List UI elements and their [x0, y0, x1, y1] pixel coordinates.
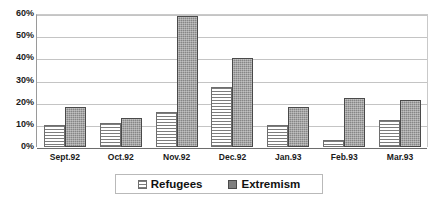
y-axis-tick-label: 0% [2, 142, 34, 151]
y-axis-tick-label: 20% [2, 98, 34, 107]
chart-legend: Refugees Extremism [115, 174, 323, 194]
bars-layer [37, 14, 428, 147]
x-axis-tick-label: Oct.92 [93, 150, 149, 164]
legend-swatch-extremism-icon [228, 180, 237, 189]
legend-swatch-refugees-icon [138, 180, 147, 189]
gridline-0 [37, 148, 427, 149]
bar-group [37, 14, 93, 147]
bar-group [372, 14, 428, 147]
bar-extremism-nov-92 [177, 16, 198, 147]
x-axis: Sept.92Oct.92Nov.92Dec.92Jan.93Feb.93Mar… [37, 150, 428, 166]
legend-entry-extremism: Extremism [228, 178, 300, 190]
y-axis-tick-label: 10% [2, 120, 34, 129]
bar-chart: 60%50%40%30%20%10%0% Sept.92Oct.92Nov.92… [0, 0, 436, 203]
bar-refugees-sept-92 [44, 125, 65, 147]
bar-extremism-sept-92 [65, 107, 86, 147]
x-axis-tick-label: Sept.92 [37, 150, 93, 164]
bar-extremism-dec-92 [232, 58, 253, 147]
bar-extremism-mar-93 [400, 100, 421, 147]
x-axis-tick-label: Jan.93 [260, 150, 316, 164]
bar-group [149, 14, 205, 147]
bar-group [316, 14, 372, 147]
legend-label-refugees: Refugees [151, 178, 203, 190]
legend-entry-refugees: Refugees [138, 178, 203, 190]
x-axis-tick-label: Feb.93 [316, 150, 372, 164]
bar-refugees-feb-93 [323, 140, 344, 147]
x-axis-tick-label: Nov.92 [149, 150, 205, 164]
x-axis-tick-label: Mar.93 [372, 150, 428, 164]
bar-group [205, 14, 261, 147]
bar-refugees-nov-92 [156, 112, 177, 147]
bar-group [93, 14, 149, 147]
legend-label-extremism: Extremism [241, 178, 300, 190]
bar-extremism-feb-93 [344, 98, 365, 147]
y-axis: 60%50%40%30%20%10%0% [0, 14, 34, 147]
bar-refugees-dec-92 [211, 87, 232, 147]
y-axis-tick-label: 60% [2, 9, 34, 18]
bar-group [260, 14, 316, 147]
bar-extremism-jan-93 [288, 107, 309, 147]
x-axis-tick-label: Dec.92 [205, 150, 261, 164]
bar-refugees-oct-92 [100, 123, 121, 147]
y-axis-tick-label: 50% [2, 31, 34, 40]
bar-refugees-jan-93 [267, 125, 288, 147]
y-axis-tick-label: 40% [2, 53, 34, 62]
chart-title [0, 0, 436, 3]
bar-extremism-oct-92 [121, 118, 142, 147]
y-axis-tick-label: 30% [2, 76, 34, 85]
bar-refugees-mar-93 [379, 120, 400, 147]
